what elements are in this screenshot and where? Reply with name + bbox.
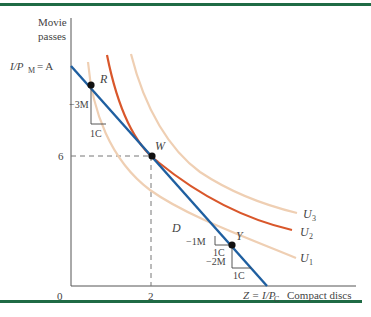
x-tick-2: 2	[148, 290, 154, 302]
y-axis-label-line1: Movie	[38, 16, 67, 28]
svg-text:3: 3	[312, 214, 316, 223]
svg-text:M: M	[28, 66, 35, 75]
x-axis-label: Compact discs	[287, 289, 351, 301]
r-drop-label: −3M	[69, 99, 89, 110]
y-left-drop-label: −1M	[186, 236, 206, 247]
svg-text:Z = I/P: Z = I/P	[243, 289, 276, 301]
budget-line	[71, 66, 267, 286]
curve-label-u1: U 1	[300, 251, 313, 267]
y-right-run-label: 1C	[233, 270, 245, 281]
svg-text:= A: = A	[37, 60, 53, 72]
point-r-label: R	[99, 72, 108, 86]
indifference-curve-u3	[131, 54, 297, 213]
y-tick-6: 6	[58, 150, 64, 162]
svg-text:1: 1	[309, 258, 313, 267]
svg-text:I/P: I/P	[9, 60, 24, 72]
svg-text:2: 2	[309, 232, 313, 241]
r-run-label: 1C	[90, 128, 102, 139]
region-d-label: D	[171, 221, 181, 235]
y-axis-label-line2: passes	[38, 30, 66, 42]
point-w	[148, 152, 155, 159]
point-r	[87, 81, 94, 88]
budget-indifference-diagram: −3M 1C −1M 1C −2M 1C R W Y D U 3 U 2 U 1…	[0, 0, 371, 317]
curve-label-u2: U 2	[300, 225, 313, 241]
top-rule	[0, 3, 371, 6]
curve-label-u3: U 3	[303, 207, 316, 223]
y-intercept-label: I/P M = A	[9, 60, 53, 75]
point-w-label: W	[155, 139, 166, 153]
indifference-curve-u1	[88, 62, 296, 258]
origin-label: 0	[57, 290, 63, 302]
point-y	[228, 241, 235, 248]
y-right-drop-label: −2M	[206, 256, 226, 267]
svg-text:C: C	[274, 295, 279, 304]
